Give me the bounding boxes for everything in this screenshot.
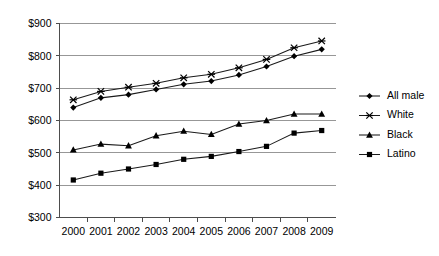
data-point-marker <box>236 72 242 78</box>
data-point-marker <box>153 86 159 92</box>
data-point-marker <box>180 75 188 81</box>
x-axis-tick-label: 2008 <box>282 225 306 237</box>
x-axis-tick-label: 2004 <box>172 225 196 237</box>
legend-label: All male <box>387 89 425 101</box>
legend-marker <box>366 93 372 99</box>
legend-marker <box>367 152 372 157</box>
chart-container: $300$400$500$600$700$800$900200020012002… <box>0 0 439 256</box>
legend-label: Latino <box>387 147 416 159</box>
legend-item-white[interactable]: White <box>359 108 414 120</box>
data-point-marker <box>290 45 298 51</box>
series-black <box>70 110 325 152</box>
legend-item-black[interactable]: Black <box>359 128 413 140</box>
series-line <box>73 131 321 180</box>
y-axis-tick-label: $700 <box>28 82 52 94</box>
data-point-marker <box>264 144 269 149</box>
data-point-marker <box>125 84 133 90</box>
x-axis-ticks: 2000200120022003200420052006200720082009 <box>62 218 334 237</box>
data-point-marker <box>319 46 325 52</box>
legend-label: White <box>387 108 414 120</box>
x-axis-tick-label: 2005 <box>200 225 224 237</box>
legend-item-all-male[interactable]: All male <box>359 89 425 101</box>
legend: All maleWhiteBlackLatino <box>359 89 425 160</box>
legend-label: Black <box>387 128 413 140</box>
data-point-marker <box>70 97 78 103</box>
data-point-marker <box>126 166 131 171</box>
y-axis-tick-label: $900 <box>28 17 52 29</box>
data-point-marker <box>181 81 187 87</box>
x-axis-tick-label: 2009 <box>310 225 334 237</box>
data-point-marker <box>292 131 297 136</box>
legend-marker <box>366 112 374 118</box>
x-axis-tick-label: 2003 <box>144 225 168 237</box>
x-axis-tick-label: 2007 <box>255 225 279 237</box>
data-point-marker <box>263 56 271 62</box>
data-point-marker <box>208 71 216 77</box>
data-point-marker <box>71 177 76 182</box>
y-axis-tick-label: $500 <box>28 147 52 159</box>
data-point-marker <box>208 78 214 84</box>
y-axis-tick-label: $800 <box>28 50 52 62</box>
y-axis-tick-label: $300 <box>28 211 52 223</box>
data-point-marker <box>152 80 160 86</box>
series-white <box>70 38 326 103</box>
y-axis-tick-label: $600 <box>28 114 52 126</box>
series-latino <box>71 128 325 183</box>
x-axis-tick-label: 2002 <box>117 225 141 237</box>
data-point-marker <box>319 128 324 133</box>
x-axis-tick-label: 2000 <box>62 225 86 237</box>
data-point-marker <box>125 92 131 98</box>
series-line <box>73 114 321 150</box>
data-point-marker <box>235 65 243 71</box>
line-chart: $300$400$500$600$700$800$900200020012002… <box>0 0 439 256</box>
series-line <box>73 41 321 100</box>
data-point-marker <box>263 63 269 69</box>
data-point-marker <box>209 154 214 159</box>
legend-item-latino[interactable]: Latino <box>359 147 416 159</box>
x-axis-tick-label: 2006 <box>227 225 251 237</box>
data-point-marker <box>98 171 103 176</box>
x-axis-tick-label: 2001 <box>89 225 113 237</box>
data-point-marker <box>97 88 105 94</box>
y-axis-tick-label: $400 <box>28 179 52 191</box>
data-point-marker <box>70 104 76 110</box>
data-point-marker <box>291 53 297 59</box>
data-point-marker <box>97 141 104 147</box>
data-point-marker <box>154 162 159 167</box>
data-point-marker <box>98 95 104 101</box>
series-line <box>73 49 321 107</box>
data-point-marker <box>318 38 326 44</box>
data-point-marker <box>236 149 241 154</box>
y-gridlines: $300$400$500$600$700$800$900 <box>28 17 335 223</box>
data-point-marker <box>181 157 186 162</box>
data-point-marker <box>180 128 187 134</box>
